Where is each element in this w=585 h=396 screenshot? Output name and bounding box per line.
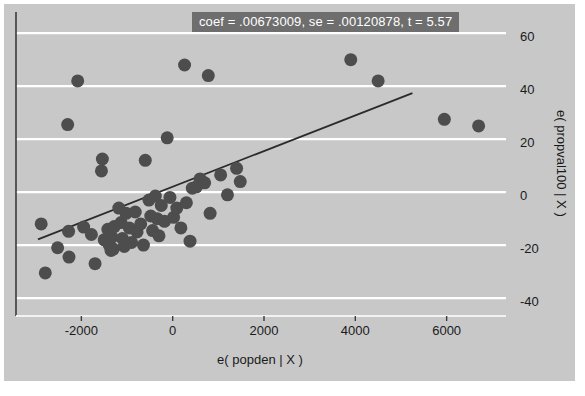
x-axis-title: e( popden | X ) (8, 352, 512, 367)
y-tick-label: 60 (520, 30, 534, 43)
y-tick-label: -40 (520, 295, 539, 308)
plot-region (8, 8, 512, 328)
x-tick-label: 0 (169, 324, 176, 337)
x-tick-label: 2000 (250, 324, 279, 337)
y-tick-label: 20 (520, 136, 534, 149)
axis-lines-group (16, 12, 506, 321)
gridlines-group (16, 33, 506, 298)
coefficient-title-box: coef = .00673009, se = .00120878, t = 5.… (192, 12, 459, 32)
y-axis-title: e( propval100 | X ) (548, 110, 568, 217)
x-tick-label: 6000 (432, 324, 461, 337)
regression-fit-line (38, 93, 412, 239)
x-tick-label: -2000 (65, 324, 98, 337)
scatter-plot-canvas (8, 8, 512, 328)
y-tick-label: -20 (520, 242, 539, 255)
x-tick-label: 4000 (341, 324, 370, 337)
y-tick-label: 40 (520, 83, 534, 96)
y-tick-label: 0 (520, 189, 527, 202)
added-variable-plot: 6040200-20-40 -20000200040006000 e( prop… (0, 0, 585, 396)
